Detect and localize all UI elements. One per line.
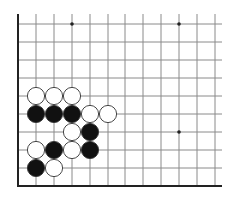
white-stone — [45, 87, 62, 104]
white-stone — [63, 87, 80, 104]
black-stone — [27, 159, 44, 176]
white-stone — [63, 141, 80, 158]
white-stone — [99, 105, 116, 122]
black-stone — [81, 141, 98, 158]
black-stone — [63, 105, 80, 122]
white-stone — [81, 105, 98, 122]
white-stone — [27, 141, 44, 158]
white-stone — [63, 123, 80, 140]
black-stone — [45, 141, 62, 158]
white-stone — [27, 87, 44, 104]
black-stone — [27, 105, 44, 122]
go-board — [0, 0, 237, 198]
star-point-icon — [177, 22, 181, 26]
black-stone — [45, 105, 62, 122]
star-point-icon — [177, 130, 181, 134]
star-point-icon — [70, 22, 74, 26]
white-stone — [45, 159, 62, 176]
black-stone — [81, 123, 98, 140]
